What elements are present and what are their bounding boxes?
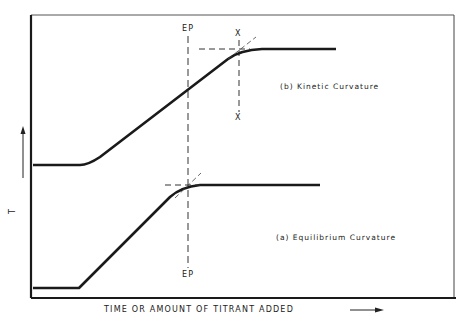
x-axis-arrow-icon	[350, 308, 384, 313]
x-label-bottom: X	[235, 113, 242, 122]
ep-label-bottom: EP	[182, 270, 194, 279]
x-axis-label: TIME OR AMOUNT OF TITRANT ADDED	[104, 305, 294, 314]
y-axis-arrow-icon	[21, 126, 26, 178]
y-axis-label: T	[8, 209, 17, 214]
x-label-top: X	[235, 29, 242, 38]
curve-label-equilibrium: (a) Equilibrium Curvature	[276, 233, 396, 242]
ep-label-top: EP	[182, 24, 194, 33]
plot-frame	[31, 15, 456, 298]
titration-diagram	[0, 0, 472, 322]
curve-kinetic	[33, 49, 336, 165]
curve-label-kinetic: (b) Kinetic Curvature	[280, 82, 379, 91]
